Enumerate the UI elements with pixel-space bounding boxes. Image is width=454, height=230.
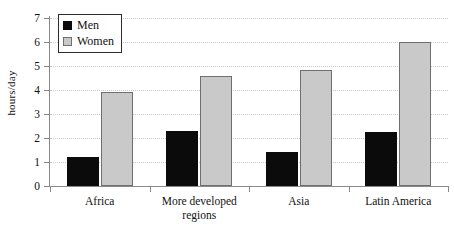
y-axis-tick-label: 2 [26, 132, 40, 144]
bar-women-africa [101, 92, 133, 186]
y-axis-tick-label: 5 [26, 60, 40, 72]
bar-women-latin-america [399, 42, 431, 186]
y-axis-tick-label: 6 [26, 36, 40, 48]
legend-label-men: Men [77, 18, 99, 33]
y-axis-tick-label: 3 [26, 108, 40, 120]
x-axis-tick [349, 186, 350, 192]
x-axis-tick [249, 186, 250, 192]
gridline [50, 90, 448, 91]
legend-item-men: Men [63, 17, 114, 33]
x-axis-label-latin-america: Latin America [349, 194, 449, 208]
gridline [50, 66, 448, 67]
bar-chart: hours/day 01234567 AfricaMore developed … [0, 0, 454, 230]
y-axis-tick-label: 0 [26, 180, 40, 192]
y-axis-title-text: hours/day [5, 70, 17, 115]
bar-men-latin-america [365, 132, 397, 186]
x-axis-tick [50, 186, 51, 192]
x-axis-tick [150, 186, 151, 192]
legend-label-women: Women [77, 34, 114, 49]
y-axis-tick-label: 1 [26, 156, 40, 168]
bar-men-more-developed-regions [166, 131, 198, 186]
x-axis-label-more-developed-regions: More developed regions [150, 194, 250, 222]
bar-men-asia [266, 152, 298, 186]
y-axis-tick-label: 4 [26, 84, 40, 96]
black-square-icon [63, 21, 72, 30]
legend-item-women: Women [63, 33, 114, 49]
bar-women-more-developed-regions [200, 76, 232, 186]
y-axis-tick-label: 7 [26, 12, 40, 24]
x-axis-label-asia: Asia [249, 194, 349, 208]
chart-legend: Men Women [58, 14, 122, 53]
bar-men-africa [67, 157, 99, 186]
y-axis-title: hours/day [0, 0, 22, 186]
gray-square-icon [63, 37, 72, 46]
x-axis-label-africa: Africa [50, 194, 150, 208]
x-axis-tick [448, 186, 449, 192]
bar-women-asia [300, 70, 332, 186]
